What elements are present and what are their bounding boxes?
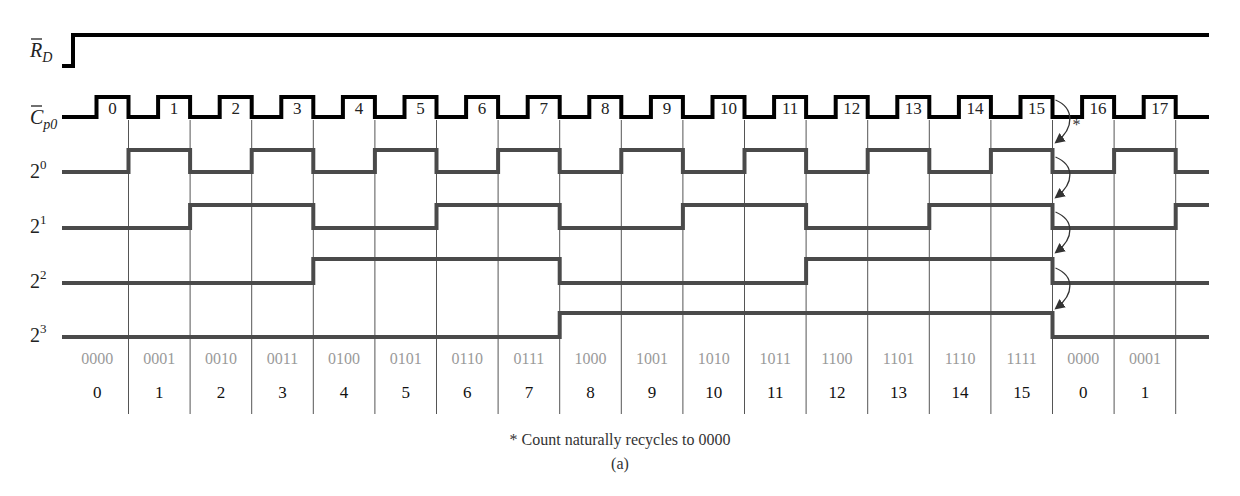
clock-pulse-number: 14 [966, 99, 984, 118]
state-binary: 1101 [883, 350, 914, 367]
clock-pulse-number: 7 [539, 99, 548, 118]
recycle-arrows: * [1056, 100, 1081, 308]
clock-pulse-number: 4 [355, 99, 364, 118]
clock-pulse-number: 17 [1151, 99, 1169, 118]
state-binary: 1010 [698, 350, 730, 367]
clock-pulse-number: 2 [231, 99, 240, 118]
state-binary: 0111 [513, 350, 544, 367]
state-decimal: 0 [93, 383, 102, 402]
state-decimal: 9 [648, 383, 657, 402]
state-decimal: 12 [828, 383, 845, 402]
label-bit0: 20 [30, 157, 47, 182]
clock-pulse-number: 9 [663, 99, 672, 118]
clock-pulse-number: 0 [108, 99, 117, 118]
state-decimal: 8 [586, 383, 595, 402]
state-binary: 0000 [81, 350, 113, 367]
state-binary: 0100 [328, 350, 360, 367]
state-binary: 1011 [760, 350, 791, 367]
label-RD_bar: RD [29, 39, 52, 65]
state-binary: 0101 [390, 350, 422, 367]
state-binary: 1001 [636, 350, 668, 367]
state-decimal: 3 [278, 383, 287, 402]
label-bit2: 22 [30, 267, 47, 292]
caption-label: (a) [611, 455, 629, 473]
wave-bit0 [62, 150, 1209, 172]
state-decimal: 1 [155, 383, 164, 402]
state-binary: 0110 [452, 350, 483, 367]
signal-labels: RDCp020212223 [29, 39, 57, 346]
clock-pulse-number: 11 [782, 99, 798, 118]
clock-pulse-number: 6 [478, 99, 487, 118]
wave-bit1 [62, 205, 1209, 228]
recycle-arrow-icon [1056, 212, 1070, 252]
clock-pulse-number: 8 [601, 99, 610, 118]
label-bit1: 21 [30, 212, 47, 237]
timing-diagram: RDCp020212223 01234567891011121314151617… [0, 0, 1240, 496]
state-decimal: 6 [463, 383, 472, 402]
state-decimal: 7 [525, 383, 534, 402]
clock-pulse-number: 16 [1090, 99, 1107, 118]
state-binary: 0011 [267, 350, 298, 367]
state-binary: 0001 [143, 350, 175, 367]
clock-pulse-number: 1 [170, 99, 179, 118]
clock-pulse-number: 3 [293, 99, 302, 118]
recycle-arrow-icon [1056, 100, 1070, 142]
clock-pulse-number: 15 [1028, 99, 1045, 118]
waveforms [62, 35, 1209, 337]
state-binary: 0001 [1129, 350, 1161, 367]
state-decimal: 1 [1141, 383, 1150, 402]
state-decimal: 15 [1013, 383, 1030, 402]
state-decimal: 10 [705, 383, 722, 402]
clock-edge-gridlines [129, 120, 1176, 414]
recycle-arrow-icon [1056, 268, 1070, 308]
state-decimal: 14 [952, 383, 970, 402]
state-binary: 0010 [205, 350, 237, 367]
clock-pulse-number: 5 [416, 99, 425, 118]
recycle-arrow-icon [1056, 157, 1070, 197]
label-bit3: 23 [30, 321, 47, 346]
state-binary: 1000 [575, 350, 607, 367]
clock-pulse-number: 10 [720, 99, 737, 118]
wave-rd [62, 35, 1209, 66]
state-decimal: 4 [340, 383, 349, 402]
state-decimal: 2 [217, 383, 226, 402]
clock-pulse-number: 12 [843, 99, 860, 118]
state-decimal: 11 [767, 383, 783, 402]
state-binary: 0000 [1067, 350, 1099, 367]
wave-bit2 [62, 259, 1209, 283]
state-decimal: 0 [1079, 383, 1088, 402]
label-Cp0_bar: Cp0 [30, 106, 57, 132]
state-decimal: 13 [890, 383, 907, 402]
caption-note: * Count naturally recycles to 0000 [510, 431, 731, 449]
state-binary: 1111 [1007, 350, 1037, 367]
state-binary: 1110 [945, 350, 976, 367]
state-decimal: 5 [401, 383, 410, 402]
state-binary: 1100 [821, 350, 852, 367]
wave-bit3 [62, 313, 1209, 337]
recycle-marker: * [1073, 116, 1081, 133]
clock-pulse-number: 13 [905, 99, 922, 118]
